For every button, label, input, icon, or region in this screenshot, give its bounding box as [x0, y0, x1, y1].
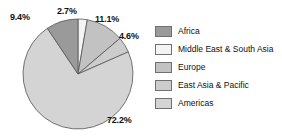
legend-item-middle-east-south-asia: Middle East & South Asia: [155, 40, 282, 58]
legend-swatch-americas: [155, 98, 172, 109]
pie-label-east-asia-pacific: 4.6%: [119, 31, 139, 41]
legend-label-east-asia-pacific: East Asia & Pacific: [178, 81, 249, 90]
pie-label-europe: 11.1%: [95, 14, 119, 24]
legend-item-east-asia-pacific: East Asia & Pacific: [155, 76, 282, 94]
legend-swatch-east-asia-pacific: [155, 80, 172, 91]
legend-label-europe: Europe: [178, 63, 205, 72]
pie-label-americas: 72.2%: [107, 115, 132, 125]
pie-chart-figure: 9.4% 2.7% 11.1% 4.6% 72.2% Africa Middle…: [0, 0, 282, 137]
legend-item-africa: Africa: [155, 22, 282, 40]
legend-label-middle-east-south-asia: Middle East & South Asia: [178, 45, 273, 54]
legend-label-africa: Africa: [178, 27, 200, 36]
pie-label-africa: 9.4%: [10, 12, 30, 22]
legend-swatch-europe: [155, 62, 172, 73]
chart-legend: Africa Middle East & South Asia Europe E…: [155, 22, 282, 112]
pie-label-middle-east-south-asia: 2.7%: [57, 6, 77, 16]
pie-slices: [23, 19, 133, 129]
legend-item-americas: Americas: [155, 94, 282, 112]
legend-swatch-middle-east-south-asia: [155, 44, 172, 55]
legend-swatch-africa: [155, 26, 172, 37]
legend-item-europe: Europe: [155, 58, 282, 76]
legend-label-americas: Americas: [178, 99, 213, 108]
pie-chart-plot-area: 9.4% 2.7% 11.1% 4.6% 72.2%: [0, 0, 150, 137]
